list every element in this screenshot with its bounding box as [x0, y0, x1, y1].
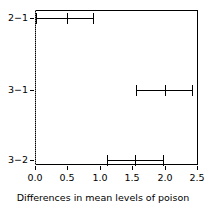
y-tick-3-2: [30, 160, 34, 161]
y-tick-2-1: [30, 18, 34, 19]
y-tick-label-3-1: 3−1: [0, 85, 28, 95]
x-tick-label-1: 0.5: [50, 173, 84, 183]
interval-upper-cap: [93, 13, 94, 24]
x-tick-4: [165, 166, 166, 170]
plot-frame: [35, 10, 198, 165]
zero-reference-line: [35, 10, 36, 165]
x-tick-label-3: 1.5: [115, 173, 149, 183]
x-tick-0: [35, 166, 36, 170]
y-tick-3-1: [30, 90, 34, 91]
y-tick-label-3-2: 3−2: [0, 155, 28, 165]
interval-upper-cap: [163, 155, 164, 166]
interval-estimate-mark: [67, 13, 68, 24]
x-tick-label-5: 2.5: [180, 173, 206, 183]
interval-estimate-mark: [165, 85, 166, 96]
x-tick-2: [100, 166, 101, 170]
x-tick-1: [67, 166, 68, 170]
interval-lower-cap: [36, 13, 37, 24]
interval-line: [36, 18, 93, 19]
x-tick-3: [132, 166, 133, 170]
y-tick-label-2-1: 2−1: [0, 13, 28, 23]
x-axis-title: Differences in mean levels of poison: [0, 192, 206, 203]
interval-lower-cap: [107, 155, 108, 166]
x-tick-label-0: 0.0: [18, 173, 52, 183]
interval-upper-cap: [192, 85, 193, 96]
x-tick-label-2: 1.0: [83, 173, 117, 183]
confidence-interval-plot: 2−1 3−1 3−2 0.0 0.5 1.0 1.5 2.0 2.5 Diff…: [0, 0, 206, 211]
x-tick-5: [197, 166, 198, 170]
x-tick-label-4: 2.0: [148, 173, 182, 183]
interval-estimate-mark: [135, 155, 136, 166]
interval-lower-cap: [136, 85, 137, 96]
